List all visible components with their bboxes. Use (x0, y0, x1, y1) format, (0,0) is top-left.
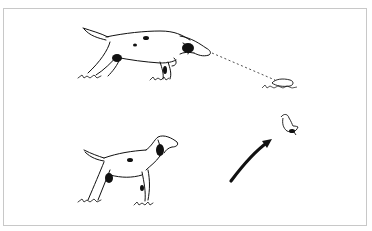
line-of-sight (212, 53, 275, 80)
flying-bird-markings (289, 129, 295, 133)
pointing-dog-markings (112, 36, 194, 74)
flush-arrow-icon (231, 139, 272, 181)
hidden-bird (262, 79, 297, 88)
illustration-canvas (0, 0, 372, 231)
pointing-dog (78, 28, 210, 80)
